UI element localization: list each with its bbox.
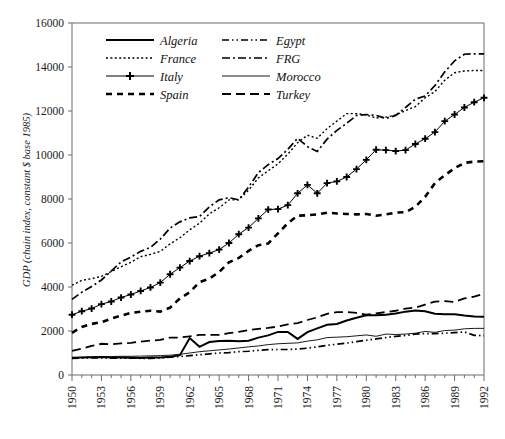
x-tick-label: 1953 xyxy=(95,386,107,409)
x-tick-label: 1956 xyxy=(125,386,137,409)
legend-label-egypt[interactable]: Egypt xyxy=(275,34,306,48)
legend-label-algeria[interactable]: Algeria xyxy=(159,34,198,48)
x-tick-label: 1989 xyxy=(449,386,461,409)
x-tick-label: 1983 xyxy=(390,386,402,409)
x-tick-label: 1950 xyxy=(66,386,78,409)
legend-label-italy[interactable]: Italy xyxy=(159,70,183,84)
x-tick-label: 1980 xyxy=(360,386,372,409)
x-tick-label: 1977 xyxy=(331,386,343,409)
x-tick-label: 1968 xyxy=(243,386,255,409)
y-tick-label: 12000 xyxy=(35,105,64,117)
legend-label-morocco[interactable]: Morocco xyxy=(275,70,321,84)
y-axis-title: GDP (chain index, constant $ base 1985) xyxy=(21,113,33,287)
legend-label-frg[interactable]: FRG xyxy=(275,52,300,66)
x-tick-label: 1971 xyxy=(272,386,284,409)
y-tick-label: 8000 xyxy=(41,193,64,205)
y-tick-label: 16000 xyxy=(35,17,64,29)
y-tick-label: 0 xyxy=(58,369,64,381)
y-tick-label: 4000 xyxy=(41,281,64,293)
x-tick-label: 1974 xyxy=(301,386,313,409)
x-tick-label: 1992 xyxy=(478,386,490,409)
x-tick-label: 1962 xyxy=(184,386,196,409)
legend-label-spain[interactable]: Spain xyxy=(160,88,188,102)
y-tick-label: 10000 xyxy=(35,149,64,161)
y-tick-label: 2000 xyxy=(41,325,64,337)
legend-label-turkey[interactable]: Turkey xyxy=(276,88,310,102)
chart-canvas: 0200040006000800010000120001400016000 19… xyxy=(0,0,505,439)
gdp-line-chart: 0200040006000800010000120001400016000 19… xyxy=(0,0,505,439)
y-tick-label: 14000 xyxy=(35,61,64,73)
legend-label-france[interactable]: France xyxy=(159,52,197,66)
x-tick-label: 1986 xyxy=(419,386,431,409)
x-tick-label: 1959 xyxy=(154,386,166,409)
y-tick-label: 6000 xyxy=(41,237,64,249)
x-tick-label: 1965 xyxy=(213,386,225,409)
chart-background xyxy=(0,0,505,439)
